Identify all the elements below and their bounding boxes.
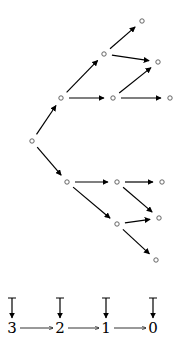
edge-arrow-h-k [123,187,152,212]
chain-label-3: 3 [7,319,17,337]
edge-arrow-d-f [119,68,151,93]
edge-arrow-a-c [67,60,98,92]
node-i [115,222,119,226]
node-b [65,180,69,184]
chain-label-2: 2 [55,319,65,337]
node-g [168,96,172,100]
edge-arrow-root-b [37,147,61,175]
node-root [30,139,34,143]
tree-edges [37,27,162,254]
node-j [160,180,164,184]
node-k [157,216,161,220]
edge-arrow-root-a [37,106,57,135]
edge-arrow-c-f [112,55,149,61]
edge-arrow-b-i [73,187,110,218]
tree-nodes [30,19,172,262]
chain-label-0: 0 [148,319,158,337]
node-e [140,19,144,23]
node-h [115,180,119,184]
node-f [156,60,160,64]
node-a [59,96,63,100]
node-c [102,52,106,56]
chain-sequence: 3210 [7,298,158,337]
edge-arrow-i-l [123,229,149,254]
chain-label-1: 1 [101,319,111,337]
node-d [111,96,115,100]
node-l [154,258,158,262]
diagram-canvas: 3210 [0,0,180,356]
edge-arrow-c-e [110,27,135,49]
edge-arrow-i-k [125,219,150,223]
